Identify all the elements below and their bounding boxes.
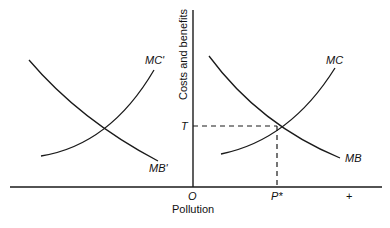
plus-label: + xyxy=(346,190,352,202)
right-mb-label: MB xyxy=(345,152,362,164)
origin-label: O xyxy=(188,190,197,202)
x-axis-label: Pollution xyxy=(172,203,214,215)
left-mb-label: MB' xyxy=(149,162,169,174)
right-mb-curve xyxy=(209,56,340,158)
left-mc-label: MC' xyxy=(145,54,165,66)
pollution-diagram: Costs and benefits Pollution O P* + T MC… xyxy=(0,0,390,228)
right-mc-label: MC xyxy=(326,54,343,66)
y-axis-label: Costs and benefits xyxy=(177,8,189,100)
left-mb-curve xyxy=(29,60,158,161)
p-star-label: P* xyxy=(271,190,283,202)
left-mc-curve xyxy=(41,70,154,156)
t-label: T xyxy=(181,120,189,132)
right-mc-curve xyxy=(221,68,335,154)
